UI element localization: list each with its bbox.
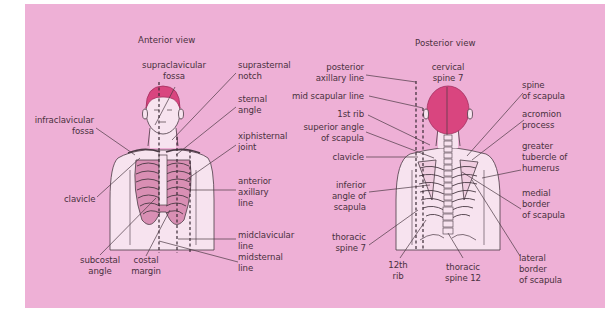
label-infraclavicular-fossa: infraclavicular fossa [30,115,94,137]
label-spine-of-scapula: spine of scapula [522,80,565,102]
label-xiphisternal-joint: xiphisternal joint [238,131,287,153]
label-subcostal-angle: subcostal angle [78,255,122,277]
label-medial-border-of-scapula: medial border of scapula [522,188,565,221]
label-lateral-border-of-scapula: lateral border of scapula [519,253,562,286]
label-midsternal-line: midsternal line [238,252,283,274]
label-suprasternal-notch: suprasternal notch [238,60,291,82]
anterior-view-title: Anterior view [138,35,195,45]
label-clavicle-anterior: clavicle [64,194,95,205]
figure-canvas: Anterior view supraclavicular fossa supr… [0,0,605,311]
label-inferior-angle-of-scapula: inferior angle of scapula [300,180,366,213]
label-posterior-axillary-line: posterior axillary line [300,62,364,84]
label-superior-angle-of-scapula: superior angle of scapula [290,122,364,144]
label-sternal-angle: sternal angle [238,94,267,116]
posterior-view-title: Posterior view [415,38,476,48]
label-midclavicular-line: midclavicular line [238,230,294,252]
anterior-figure [110,82,214,253]
label-acromion-process: acromion process [522,109,561,131]
label-greater-tubercle-of-humerus: greater tubercle of humerus [522,141,567,174]
label-thoracic-spine-7: thoracic spine 7 [300,232,366,254]
label-thoracic-spine-12: thoracic spine 12 [440,262,486,284]
label-supraclavicular-fossa: supraclavicular fossa [134,60,214,82]
label-costal-margin: costal margin [126,255,166,277]
label-anterior-axillary-line: anterior axillary line [238,176,271,209]
label-cervical-spine-7: cervical spine 7 [425,62,471,84]
label-mid-scapular-line: mid scapular line [290,91,364,102]
label-1st-rib: 1st rib [300,109,364,120]
posterior-figure [396,81,500,250]
label-clavicle-posterior: clavicle [300,152,364,163]
label-12th-rib: 12th rib [378,260,418,282]
